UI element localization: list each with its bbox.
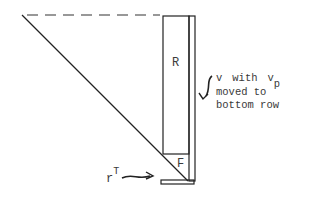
r-matrix-box [163, 16, 189, 154]
v-column-box [189, 16, 195, 181]
matrix-diagram: R F rT vwithvp moved to bottom row [0, 0, 310, 198]
arrow-to-rt-icon [122, 176, 150, 178]
r-transpose-label: rT [106, 166, 119, 186]
note-line-2: moved to [216, 86, 266, 98]
r-label: R [172, 56, 179, 70]
f-label: F [177, 157, 184, 171]
arrow-to-v-icon [206, 76, 212, 96]
note-line-3: bottom row [216, 99, 280, 111]
